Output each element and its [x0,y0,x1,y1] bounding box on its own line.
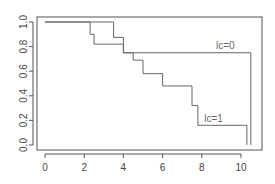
x-tick-label: 10 [235,162,247,173]
y-tick-label: 1.0 [18,15,29,29]
y-tick-label: 0.0 [18,138,29,152]
plot-box [37,17,262,150]
x-tick-label: 2 [81,162,87,173]
y-tick-label: 0.4 [18,88,29,102]
x-axis: 0246810 [42,154,247,173]
x-tick-label: 4 [121,162,127,173]
x-tick-label: 8 [199,162,205,173]
survival-chart: 0.00.20.40.60.81.0 0246810 lc=0lc=1 [0,0,275,184]
y-axis: 0.00.20.40.60.81.0 [18,15,34,152]
x-tick-label: 0 [42,162,48,173]
curve-label: lc=0 [216,40,235,51]
y-tick-label: 0.8 [18,39,29,53]
y-tick-label: 0.6 [18,64,29,78]
curve-label: lc=1 [204,113,223,124]
y-tick-label: 0.2 [18,113,29,127]
x-tick-label: 6 [160,162,166,173]
